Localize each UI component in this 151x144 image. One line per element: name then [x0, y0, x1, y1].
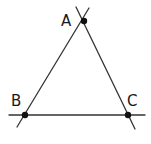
point-c: [125, 112, 131, 118]
diagram-svg: A B C: [0, 0, 151, 144]
label-b: B: [11, 92, 21, 110]
label-a: A: [61, 12, 72, 30]
label-c: C: [127, 92, 137, 110]
point-a: [81, 18, 87, 24]
point-b: [22, 112, 28, 118]
line-ac: [76, 7, 135, 129]
line-ab: [17, 8, 89, 127]
triangle-diagram: A B C: [0, 0, 151, 144]
